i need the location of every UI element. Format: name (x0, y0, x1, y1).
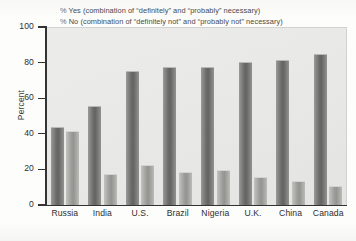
bar-group (51, 27, 80, 205)
bar-nigeria-yes (201, 67, 214, 205)
bar-group (201, 27, 230, 205)
bar-group (126, 27, 155, 205)
bar-india-no (104, 174, 117, 205)
legend-label-yes: Yes (combination of “definitely” and “pr… (69, 6, 261, 15)
bar-us-yes (126, 71, 139, 206)
bar-china-no (292, 181, 305, 205)
bar-group (314, 27, 343, 205)
bar-india-yes (88, 106, 101, 205)
y-axis-label-0: 0 (0, 199, 34, 209)
y-axis-label-20: 20 (0, 163, 34, 173)
bar-brazil-yes (163, 67, 176, 205)
legend-percent-symbol-no: % (60, 17, 67, 26)
x-axis-label-canada: Canada (298, 208, 356, 218)
y-axis-tick-80 (38, 62, 46, 63)
bar-group (88, 27, 117, 205)
bar-uk-no (254, 177, 267, 205)
y-axis-tick-60 (38, 98, 46, 99)
bar-series-container (46, 27, 347, 205)
bar-group (163, 27, 192, 205)
legend-label-no: No (combination of “definitely not” and … (69, 17, 283, 26)
bar-china-yes (276, 60, 289, 205)
y-axis-tick-20 (38, 169, 46, 170)
y-axis-tick-40 (38, 133, 46, 134)
bar-chart: % Yes (combination of “definitely” and “… (0, 0, 356, 241)
bar-nigeria-no (217, 170, 230, 205)
y-axis-label-100: 100 (0, 21, 34, 31)
bar-us-no (141, 165, 154, 205)
y-axis-label-40: 40 (0, 128, 34, 138)
bar-group (239, 27, 268, 205)
y-axis-label-60: 60 (0, 92, 34, 102)
legend-item-no: % No (combination of “definitely not” an… (60, 17, 350, 28)
y-axis-tick-100 (38, 26, 46, 27)
y-axis-tick-0 (38, 204, 46, 205)
legend-item-yes: % Yes (combination of “definitely” and “… (60, 6, 350, 17)
bar-group (276, 27, 305, 205)
bar-uk-yes (239, 62, 252, 205)
bar-brazil-no (179, 172, 192, 205)
bar-canada-yes (314, 54, 327, 205)
bar-canada-no (329, 186, 342, 205)
bar-russia-yes (51, 127, 64, 205)
y-axis-label-80: 80 (0, 57, 34, 67)
chart-legend: % Yes (combination of “definitely” and “… (60, 6, 350, 27)
legend-percent-symbol-yes: % (60, 6, 67, 15)
bar-russia-no (66, 131, 79, 205)
